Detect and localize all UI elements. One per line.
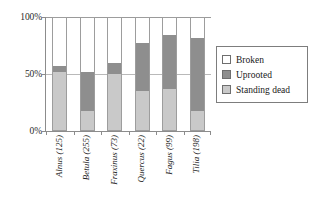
bar-segment-broken (81, 18, 94, 72)
bar-group (46, 17, 211, 131)
bar-slot (184, 17, 212, 131)
x-label-slot: Betula (255) (73, 133, 101, 217)
legend-swatch-icon (222, 70, 231, 79)
bar-slot (46, 17, 74, 131)
y-axis-labels: 100% 50% 0% (2, 0, 42, 217)
y-tick-label-100: 100% (4, 12, 42, 22)
legend-label: Uprooted (236, 70, 272, 80)
x-label-slot: Tilia (198) (183, 133, 211, 217)
bar-segment-broken (136, 18, 149, 43)
x-tick-mark (210, 131, 211, 135)
bar-slot (156, 17, 184, 131)
legend-swatch-icon (222, 55, 231, 64)
bar-segment-broken (163, 18, 176, 35)
x-tick-label-1: Betula (255) (82, 135, 91, 180)
bar-segment-uprooted (136, 43, 149, 91)
x-tick-label-5: Tilia (198) (192, 135, 201, 173)
chart-legend: BrokenUprootedStanding dead (216, 46, 308, 103)
x-tick-label-4: Fagus (99) (164, 135, 173, 175)
stacked-bar[interactable] (162, 17, 177, 131)
bar-segment-standing-dead (53, 72, 66, 130)
legend-item-broken[interactable]: Broken (222, 52, 303, 67)
legend-item-uprooted[interactable]: Uprooted (222, 67, 303, 82)
legend-item-standing-dead[interactable]: Standing dead (222, 82, 303, 97)
stacked-bar[interactable] (135, 17, 150, 131)
bar-segment-uprooted (108, 63, 121, 74)
y-tick-label-0: 0% (4, 126, 42, 136)
bar-slot (129, 17, 157, 131)
x-tick-label-2: Fraxinus (73) (109, 135, 118, 185)
bar-segment-uprooted (81, 72, 94, 111)
x-label-slot: Fraxinus (73) (100, 133, 128, 217)
bar-segment-uprooted (163, 35, 176, 89)
x-label-slot: Fagus (99) (155, 133, 183, 217)
stacked-bar[interactable] (107, 17, 122, 131)
legend-label: Standing dead (236, 85, 290, 95)
x-tick-label-3: Quercus (22) (137, 135, 146, 182)
x-axis-labels: Alnus (125)Betula (255)Fraxinus (73)Quer… (45, 133, 210, 217)
legend-swatch-icon (222, 85, 231, 94)
stacked-bar[interactable] (52, 17, 67, 131)
stacked-bar[interactable] (190, 17, 205, 131)
bar-segment-uprooted (191, 38, 204, 111)
bar-segment-broken (108, 18, 121, 63)
bar-slot (74, 17, 102, 131)
bar-segment-broken (191, 18, 204, 38)
x-label-slot: Quercus (22) (128, 133, 156, 217)
stacked-bar-chart: 100% 50% 0% Alnus (125)Betula (255)Fraxi… (0, 0, 316, 217)
x-tick-label-0: Alnus (125) (54, 135, 63, 177)
stacked-bar[interactable] (80, 17, 95, 131)
plot-area (45, 17, 211, 132)
bar-segment-standing-dead (191, 111, 204, 130)
y-tick-label-50: 50% (4, 69, 42, 79)
legend-label: Broken (236, 55, 264, 65)
bar-segment-standing-dead (163, 89, 176, 130)
bar-segment-standing-dead (136, 91, 149, 130)
bar-slot (101, 17, 129, 131)
bar-segment-broken (53, 18, 66, 66)
x-label-slot: Alnus (125) (45, 133, 73, 217)
bar-segment-standing-dead (108, 74, 121, 130)
bar-segment-standing-dead (81, 111, 94, 130)
